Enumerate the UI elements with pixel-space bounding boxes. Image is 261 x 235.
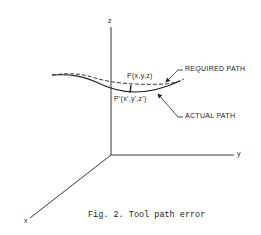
required-point-label: P(x,y,z): [127, 72, 153, 79]
x-axis-label: x: [24, 217, 28, 224]
figure-caption: Fig. 2. Tool path error: [88, 210, 205, 220]
actual-path-curve: [52, 75, 180, 92]
error-vector: [130, 85, 131, 93]
actual-path-callout: ACTUAL PATH: [185, 112, 235, 119]
required-path-callout: REQUIRED PATH: [185, 65, 245, 72]
x-axis: [30, 155, 111, 218]
y-axis-label: y: [237, 150, 241, 157]
actual-point-label: P'(x',y',z'): [114, 95, 147, 102]
z-axis-label: z: [108, 17, 112, 24]
figure-canvas: z y x P(x,y,z) P'(x',y',z') REQUIRED PAT…: [0, 0, 261, 235]
actual-path-leader: [158, 94, 183, 117]
required-path-leader: [166, 70, 183, 82]
